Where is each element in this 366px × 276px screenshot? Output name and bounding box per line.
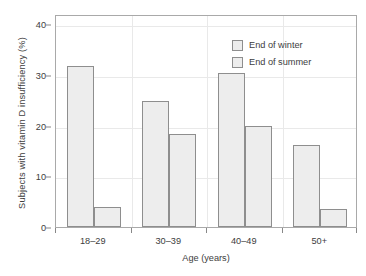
bar (293, 145, 320, 227)
y-tick-mark (46, 177, 51, 178)
y-tick-mark (46, 25, 51, 26)
plot-area (55, 15, 357, 228)
x-tick-mark (356, 228, 357, 233)
bar (142, 101, 169, 227)
x-tick-label: 30–39 (155, 236, 181, 246)
y-axis-ticks: 010203040 (0, 0, 55, 276)
x-tick-label: 50+ (311, 236, 327, 246)
y-tick-label: 20 (36, 122, 46, 132)
legend-label: End of winter (249, 40, 303, 50)
legend-item: End of winter (232, 39, 311, 51)
y-tick-label: 40 (36, 20, 46, 30)
x-tick-mark (131, 228, 132, 233)
x-axis-title: Age (years) (55, 253, 357, 263)
x-tick-mark (282, 228, 283, 233)
legend-swatch-icon (232, 57, 243, 68)
y-tick-mark (46, 126, 51, 127)
bar-chart: Subjects with vitamin D insufficiency (%… (0, 0, 366, 276)
legend-item: End of summer (232, 56, 311, 68)
bar (67, 66, 94, 227)
bar (320, 209, 347, 227)
y-tick-label: 30 (36, 71, 46, 81)
y-tick-mark (46, 228, 51, 229)
bar (245, 126, 272, 227)
x-axis-ticks: 18–2930–3940–4950+ (55, 228, 357, 276)
bar (94, 207, 121, 227)
y-tick-mark (46, 75, 51, 76)
legend-swatch-icon (232, 40, 243, 51)
bar (169, 134, 196, 227)
x-tick-mark (206, 228, 207, 233)
y-tick-label: 10 (36, 172, 46, 182)
bar (218, 73, 245, 227)
x-tick-label: 40–49 (231, 236, 257, 246)
legend: End of winterEnd of summer (232, 39, 311, 73)
legend-label: End of summer (249, 57, 311, 67)
x-tick-mark (55, 228, 56, 233)
x-tick-label: 18–29 (80, 236, 106, 246)
